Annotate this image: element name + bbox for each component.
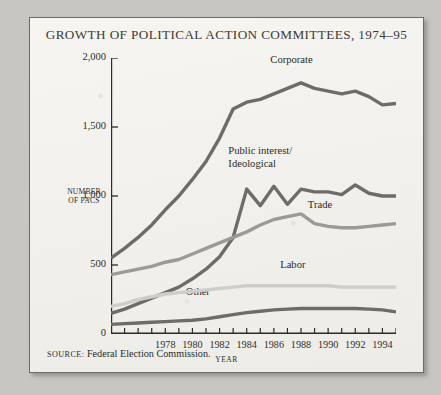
y-tick-label: 500 bbox=[66, 258, 106, 269]
source-text: Federal Election Commission. bbox=[87, 348, 211, 359]
source-label: SOURCE: bbox=[47, 350, 84, 359]
y-tick-label: 0 bbox=[66, 327, 106, 338]
y-tick-label: 1,000 bbox=[66, 189, 106, 200]
series-line-labor bbox=[111, 286, 396, 307]
series-line-corporate bbox=[111, 83, 396, 258]
x-tick-label: 1994 bbox=[360, 339, 404, 350]
series-line-other bbox=[111, 308, 396, 324]
y-tick-label: 2,000 bbox=[66, 51, 106, 62]
chart-svg bbox=[111, 58, 396, 334]
plot-area bbox=[111, 58, 396, 334]
source-note: SOURCE: Federal Election Commission. bbox=[47, 348, 211, 359]
series-line-public-interest-ideological bbox=[111, 185, 396, 313]
chart-title: GROWTH OF POLITICAL ACTION COMMITTEES, 1… bbox=[30, 27, 423, 43]
y-tick-label: 1,500 bbox=[66, 120, 106, 131]
data-lines bbox=[111, 83, 396, 325]
figure-card: GROWTH OF POLITICAL ACTION COMMITTEES, 1… bbox=[29, 17, 424, 373]
